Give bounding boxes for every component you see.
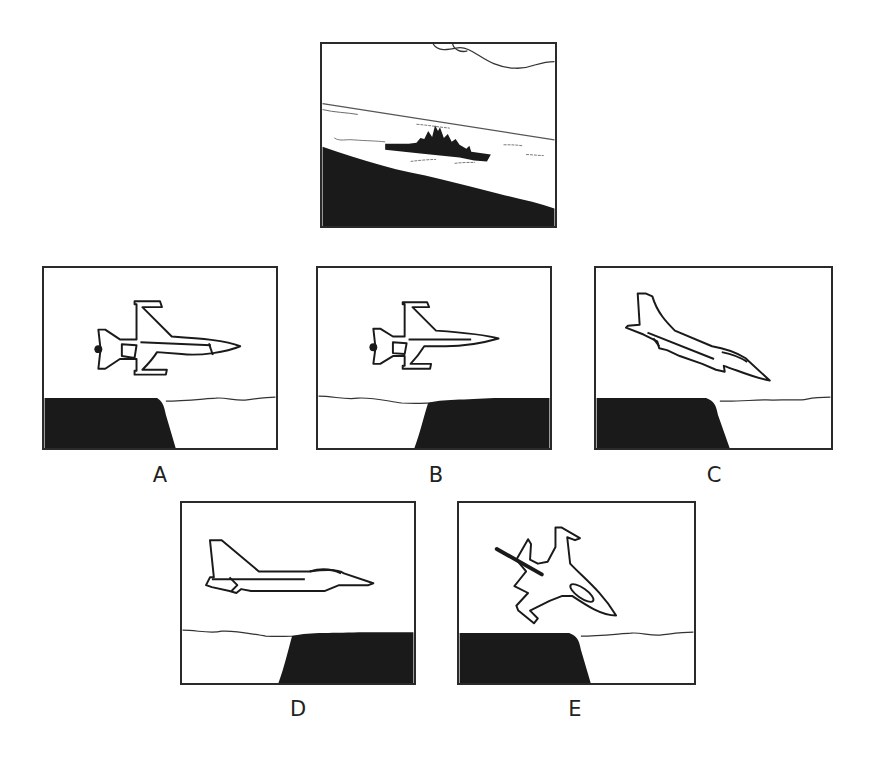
jet-topview-facing-right-icon [318,268,550,448]
stimulus-panel [320,42,557,228]
option-e-panel[interactable] [457,501,696,685]
option-c-label: C [694,463,734,487]
option-d-label: D [278,697,318,721]
option-b-panel[interactable] [316,266,552,450]
jet-side-diving-right-icon [596,268,831,448]
option-d-panel[interactable] [180,501,416,685]
jet-topview-banking-down-right-icon [459,503,694,683]
jet-topview-facing-right-icon [44,268,276,448]
jet-side-level-right-icon [182,503,414,683]
option-c-panel[interactable] [594,266,833,450]
ship-scene-icon [322,44,555,226]
option-b-label: B [416,463,456,487]
option-a-label: A [140,463,180,487]
option-e-label: E [555,697,595,721]
option-a-panel[interactable] [42,266,278,450]
